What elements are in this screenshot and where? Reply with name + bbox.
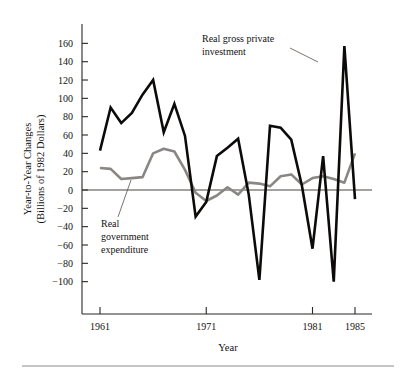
x-tick-label: 1961 [90,321,110,332]
y-tick-label: 0 [68,185,73,196]
annotation-government-line2: government [101,231,149,242]
y-tick-label: −40 [57,221,73,232]
annotation-government-line1: Real [101,218,120,229]
y-tick-label: −100 [52,276,73,287]
annotation-investment-line1: Real gross private [202,33,275,44]
y-tick-label: 100 [58,93,73,104]
y-tick-label: 140 [58,56,73,67]
y-tick-label: 160 [58,38,73,49]
x-tick-label: 1971 [196,321,216,332]
y-tick-label: 120 [58,75,73,86]
y-tick-label: 40 [63,148,73,159]
chart-svg: 160140120100806040200−20−40−60−80−100 19… [0,0,400,376]
x-axis-title: Year [218,342,238,353]
y-tick-label: 80 [63,111,73,122]
x-tick-label: 1985 [345,321,365,332]
annotation-investment-line2: investment [202,46,246,57]
y-tick-label: 20 [63,166,73,177]
annotation-government-line3: expenditure [101,244,149,255]
x-tick-label: 1981 [303,321,323,332]
chart-figure: 160140120100806040200−20−40−60−80−100 19… [0,0,400,376]
y-tick-label: −60 [57,240,73,251]
y-axis-title-line2: (Billions of 1982 Dollars) [35,114,47,223]
y-axis-title-line1: Year-to-Year Changes [22,123,33,215]
y-tick-label: −80 [57,258,73,269]
y-tick-label: 60 [63,130,73,141]
y-tick-label: −20 [57,203,73,214]
